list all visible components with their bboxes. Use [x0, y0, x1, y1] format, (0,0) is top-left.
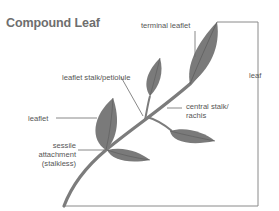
label-sessile-attachment: sessile attachment (stalkless) — [18, 141, 76, 168]
leaf-bracket — [64, 22, 258, 206]
label-leaf: leaf — [249, 71, 261, 80]
label-central-stalk-line2: rachis — [186, 111, 229, 120]
terminal-leaflet — [189, 22, 218, 84]
compound-leaf-illustration — [0, 0, 279, 211]
label-central-stalk-line1: central stalk/ — [186, 102, 229, 111]
label-leaflet: leaflet — [28, 114, 48, 123]
label-terminal-leaflet: terminal leaflet — [141, 21, 190, 30]
label-sessile-line1: sessile — [18, 141, 76, 150]
leaflet-stalk-leader — [121, 77, 143, 116]
upper-middle-leaflet — [146, 58, 161, 96]
label-central-stalk: central stalk/ rachis — [186, 102, 229, 120]
sessile-leaflet — [107, 149, 150, 162]
label-leaflet-stalk: leaflet stalk/petiolule — [62, 73, 130, 82]
right-leaflet-stalk — [147, 117, 172, 131]
diagram-title: Compound Leaf — [6, 16, 100, 30]
label-sessile-line3: (stalkless) — [18, 159, 76, 168]
right-leaflet — [170, 129, 215, 143]
label-sessile-line2: attachment — [18, 150, 76, 159]
